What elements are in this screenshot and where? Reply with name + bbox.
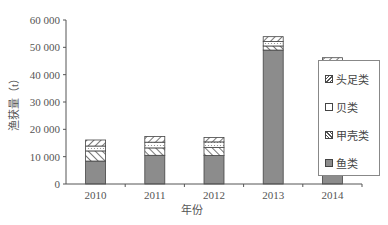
bar-segment xyxy=(86,151,106,161)
legend-item-shellfish: 贝类 xyxy=(325,99,358,115)
dotted-swatch-icon xyxy=(325,103,333,111)
bar-segment xyxy=(86,140,106,146)
y-tick-label: 30 000 xyxy=(30,96,61,108)
legend-item-crustaceans: 甲壳类 xyxy=(325,127,369,143)
legend-item-fish: 鱼类 xyxy=(325,155,358,171)
x-tick-label: 2010 xyxy=(85,189,108,201)
solid-gray-swatch-icon xyxy=(325,159,333,167)
y-tick-label: 0 xyxy=(55,178,61,190)
slash-hatch-swatch-icon xyxy=(325,75,333,83)
x-tick-label: 2012 xyxy=(203,189,225,201)
y-tick-label: 10 000 xyxy=(30,151,61,163)
x-axis: 20102011201220132014 xyxy=(66,184,362,201)
bar-2011 xyxy=(145,136,165,184)
bar-segment xyxy=(145,148,165,155)
y-tick-label: 50 000 xyxy=(30,41,61,53)
bar-segment xyxy=(204,147,224,155)
bar-segment xyxy=(145,136,165,142)
bar-2010 xyxy=(86,140,106,184)
backslash-hatch-swatch-icon xyxy=(325,131,333,139)
bar-2012 xyxy=(204,138,224,184)
y-tick-label: 60 000 xyxy=(30,14,61,26)
legend-label: 贝类 xyxy=(336,99,358,115)
bar-segment xyxy=(145,155,165,184)
legend-label: 头足类 xyxy=(336,71,369,87)
y-tick-label: 40 000 xyxy=(30,69,61,81)
bar-segment xyxy=(204,138,224,142)
x-axis-title: 年份 xyxy=(181,203,203,216)
legend: 头足类 贝类 甲壳类 鱼类 xyxy=(318,60,380,176)
bar-segment xyxy=(204,142,224,147)
y-tick-label: 20 000 xyxy=(30,123,61,135)
bar-segment xyxy=(263,46,283,50)
bar-segment xyxy=(145,142,165,148)
bar-segment xyxy=(86,146,106,151)
x-tick-label: 2014 xyxy=(321,189,344,201)
bar-segment xyxy=(263,42,283,46)
bar-segment xyxy=(204,156,224,184)
legend-label: 鱼类 xyxy=(336,155,358,171)
legend-item-cephalopods: 头足类 xyxy=(325,71,369,87)
bar-2013 xyxy=(263,37,283,184)
x-tick-label: 2011 xyxy=(144,189,166,201)
bar-segment xyxy=(86,161,106,184)
y-axis: 010 00020 00030 00040 00050 00060 000 xyxy=(30,14,66,190)
bar-segment xyxy=(263,37,283,42)
x-tick-label: 2013 xyxy=(262,189,285,201)
bar-segment xyxy=(263,50,283,184)
bars xyxy=(86,37,343,184)
legend-label: 甲壳类 xyxy=(336,127,369,143)
y-axis-title: 渔获量（t） xyxy=(8,73,20,131)
